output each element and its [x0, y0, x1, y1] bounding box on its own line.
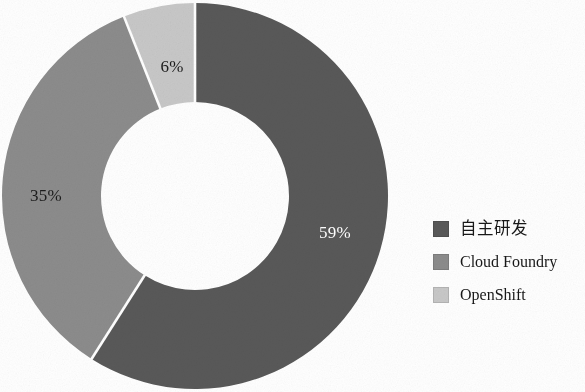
chart-legend: 自主研发 Cloud Foundry OpenShift — [433, 212, 583, 311]
donut-svg — [0, 0, 420, 392]
legend-swatch-icon-0 — [433, 221, 449, 237]
donut-slice-group — [2, 2, 388, 389]
legend-label-1: Cloud Foundry — [460, 253, 557, 271]
legend-item-2: OpenShift — [433, 278, 583, 311]
legend-item-1: Cloud Foundry — [433, 245, 583, 278]
legend-label-2: OpenShift — [460, 286, 526, 304]
donut-chart-figure: 59% 35% 6% 自主研发 Cloud Foundry OpenShift — [0, 0, 585, 392]
donut-plot-area: 59% 35% 6% — [0, 0, 420, 392]
legend-label-0: 自主研发 — [460, 220, 528, 238]
legend-swatch-icon-2 — [433, 287, 449, 303]
legend-item-0: 自主研发 — [433, 212, 583, 245]
legend-swatch-icon-1 — [433, 254, 449, 270]
